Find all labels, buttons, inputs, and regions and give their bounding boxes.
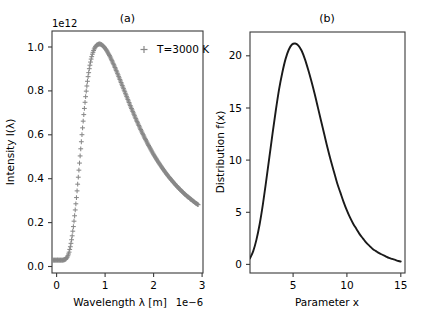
panel-a-xtick-2: 2 <box>150 279 157 291</box>
panel-a-ytick-0: 0.0 <box>27 260 44 272</box>
panel-b-ytick-5: 5 <box>235 206 242 218</box>
panel-a-x-offset-text: 1e−6 <box>176 297 203 308</box>
panel-b-ytick-20: 20 <box>229 49 242 61</box>
figure-background <box>0 0 423 325</box>
panel-a-ytick-2: 0.4 <box>27 172 44 184</box>
panel-a-xlabel: Wavelength λ [m] <box>73 296 167 308</box>
legend-label-temperature: T=3000 K <box>156 43 210 55</box>
panel-a-xtick-0: 0 <box>53 279 60 291</box>
panel-b-ytick-10: 10 <box>229 154 242 166</box>
panel-a-ytick-4: 0.8 <box>27 84 44 96</box>
matplotlib-figure: (a) 1e12 0 1 2 <box>0 0 423 325</box>
panel-a-ylabel: Intensity I(λ) <box>4 119 16 186</box>
panel-b-xtick-15: 15 <box>394 279 407 291</box>
panel-a-ytick-1: 0.2 <box>27 216 44 228</box>
panel-a-xtick-1: 1 <box>102 279 109 291</box>
panel-a-ytick-5: 1.0 <box>27 41 44 53</box>
panel-b-ytick-15: 15 <box>229 102 242 114</box>
panel-b-title: (b) <box>319 12 335 25</box>
panel-b-ylabel: Distribution f(x) <box>214 111 226 194</box>
panel-a-xtick-3: 3 <box>199 279 206 291</box>
panel-a-y-offset-text: 1e12 <box>52 18 77 29</box>
figure-canvas: (a) 1e12 0 1 2 <box>0 0 423 325</box>
panel-b-xlabel: Parameter x <box>295 296 359 308</box>
panel-a-title: (a) <box>120 12 135 25</box>
panel-a-ytick-3: 0.6 <box>27 128 44 140</box>
panel-b-xtick-10: 10 <box>340 279 353 291</box>
panel-b-ytick-0: 0 <box>235 258 242 270</box>
panel-b-xtick-5: 5 <box>290 279 297 291</box>
